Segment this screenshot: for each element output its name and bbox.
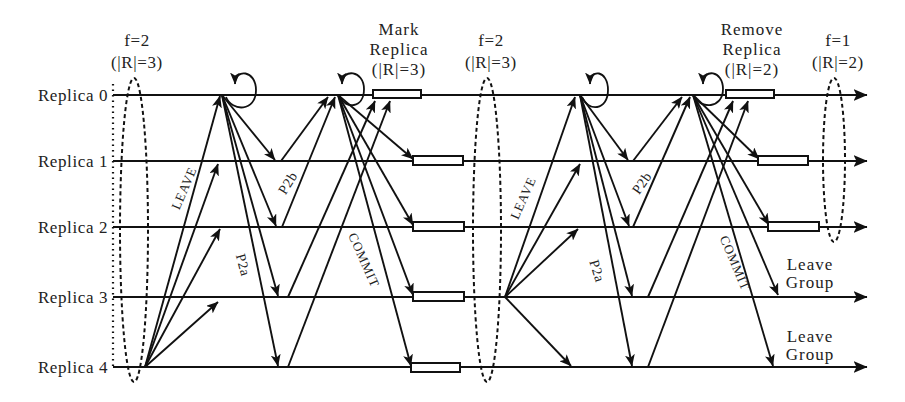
mark-replica-line3: (|R|=3): [372, 60, 427, 79]
configuration-2: f=2 (|R|=3): [465, 31, 517, 382]
replication-timeline-diagram: Replica 0 Replica 1 Replica 2 Replica 3 …: [0, 0, 905, 402]
remove-replica-line1: Remove: [721, 20, 784, 39]
p2b-msg2-r1-r0: [633, 97, 682, 161]
leave-group-r3-line1: Leave: [787, 255, 834, 274]
commit-label-2: COMMIT: [717, 233, 754, 292]
leader-self-loop-icon: [226, 73, 256, 107]
replica-3-label: Replica 3: [38, 288, 108, 307]
leave-group-r4-annotation: Leave Group: [786, 327, 834, 364]
leave-msg-r4-r0: [145, 96, 220, 367]
mark-box-r1: [413, 156, 463, 165]
p2b-label-2: P2b: [629, 169, 655, 197]
leave-group-r3-line2: Group: [786, 273, 834, 292]
remove-box-r1: [758, 156, 808, 165]
mark-box-r2: [413, 222, 464, 231]
leave-group-r3-annotation: Leave Group: [786, 255, 834, 292]
diagram-svg: Replica 0 Replica 1 Replica 2 Replica 3 …: [0, 0, 905, 402]
p2b-msg2-r3-r0: [648, 101, 733, 297]
leave-msg-r3-r4: [505, 297, 571, 366]
mark-box-r4: [411, 363, 460, 372]
leave-msg-r3-r1: [505, 164, 580, 297]
replica-labels: Replica 0 Replica 1 Replica 2 Replica 3 …: [38, 86, 108, 377]
p2a-label-2: P2a: [586, 258, 607, 284]
mark-replica-line2: Replica: [370, 40, 429, 59]
p2a-msg2-r0-r4: [580, 95, 632, 366]
config-2-f: f=2: [478, 31, 504, 50]
config-3-f: f=1: [825, 31, 851, 50]
commit-msg2-r0-r4: [693, 95, 773, 366]
replica-4-label: Replica 4: [38, 358, 108, 377]
replica-0-label: Replica 0: [38, 86, 108, 105]
mark-replica-line1: Mark: [379, 20, 420, 39]
config-1-size: (|R|=3): [111, 53, 163, 72]
p2a-label-1: P2a: [233, 252, 253, 278]
config-3-size: (|R|=2): [812, 53, 864, 72]
remove-replica-line2: Replica: [723, 40, 782, 59]
remove-box-r0: [726, 90, 774, 98]
remove-box-r2: [768, 222, 819, 231]
remove-replica-annotation: Remove Replica (|R|=2): [721, 20, 784, 79]
mark-box-r3: [413, 292, 464, 301]
mark-box-r0: [373, 90, 421, 98]
p2a-msg-r0-r4: [222, 95, 278, 366]
config-1-f: f=2: [124, 31, 150, 50]
phase-1: LEAVE P2b P2a COMMIT: [145, 73, 464, 372]
phase-2: LEAVE P2b P2a COMMIT: [505, 73, 819, 367]
p2b-msg2-r4-r0: [648, 101, 748, 367]
quorum-ellipse-1: [120, 78, 148, 382]
commit-msg-r0-r4: [338, 95, 411, 366]
configuration-3: f=1 (|R|=2): [812, 31, 864, 242]
leave-group-r4-line2: Group: [786, 345, 834, 364]
mark-replica-annotation: Mark Replica (|R|=3): [370, 20, 429, 79]
timelines: [113, 95, 867, 367]
quorum-ellipse-2: [473, 78, 501, 382]
replica-1-label: Replica 1: [38, 152, 108, 171]
replica-2-label: Replica 2: [38, 218, 108, 237]
remove-replica-line3: (|R|=2): [725, 60, 780, 79]
config-2-size: (|R|=3): [465, 53, 517, 72]
leave-group-r4-line1: Leave: [787, 327, 834, 346]
